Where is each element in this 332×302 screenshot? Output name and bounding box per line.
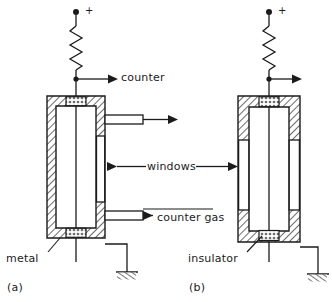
arrow-left-icon xyxy=(107,162,117,171)
ground-lead-b xyxy=(300,247,318,274)
ground-lead-a xyxy=(105,244,127,272)
window-right-b xyxy=(289,140,299,210)
insulator-plug-bottom-b xyxy=(259,231,279,241)
label-counter-gas: counter gas xyxy=(157,211,224,224)
panel-a-supply-circuit xyxy=(70,9,118,100)
arrow-right-icon xyxy=(108,75,118,84)
counter-port-tube-a xyxy=(105,115,143,124)
caption-panel-b: (b) xyxy=(189,281,205,294)
resistor-icon xyxy=(70,26,82,70)
panel-b-supply-circuit xyxy=(263,9,302,100)
window-left-b xyxy=(239,140,249,210)
terminal-dot-icon xyxy=(266,9,272,15)
insulator-plug-top-a xyxy=(66,97,86,106)
label-plus-terminal-b: + xyxy=(278,5,286,16)
label-counter: counter xyxy=(121,71,165,84)
figure-canvas: counter windows counter gas metal insula… xyxy=(0,0,332,302)
counter-port-a xyxy=(105,115,178,124)
panel-a-group xyxy=(47,9,178,280)
insulator-plug-top-b xyxy=(259,97,279,107)
arrow-right-icon xyxy=(168,115,178,124)
counter-cross-section-diagram xyxy=(0,0,332,302)
label-plus-terminal-a: + xyxy=(85,5,93,16)
insulator-plug-bottom-a xyxy=(66,228,86,237)
ground-connection-b xyxy=(300,247,329,282)
caption-panel-a: (a) xyxy=(7,281,23,294)
resistor-icon xyxy=(263,26,275,70)
terminal-dot-icon xyxy=(73,9,79,15)
label-windows: windows xyxy=(147,160,196,173)
arrow-right-icon xyxy=(228,162,238,171)
metal-leader-line xyxy=(48,238,60,252)
ground-connection-a xyxy=(105,244,138,280)
window-right-a xyxy=(97,136,105,202)
ground-icon xyxy=(117,273,136,280)
label-metal: metal xyxy=(6,252,39,265)
panel-b-group xyxy=(238,9,329,282)
ground-icon xyxy=(308,275,327,282)
gas-port-tube-a xyxy=(105,211,143,220)
label-insulator: insulator xyxy=(188,252,238,265)
gas-port-a xyxy=(105,211,143,220)
arrow-right-icon xyxy=(292,75,302,84)
